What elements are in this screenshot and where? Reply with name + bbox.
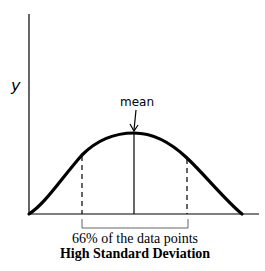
range-bracket [82,219,188,228]
mean-arrow [134,110,136,130]
diagram-title: High Standard Deviation [60,246,210,261]
bell-curve [29,133,242,214]
distribution-diagram: y mean 66% of the data points High Stand… [0,0,265,271]
mean-label: mean [120,95,154,109]
y-axis-label: y [10,76,21,95]
bracket-caption: 66% of the data points [72,231,198,246]
